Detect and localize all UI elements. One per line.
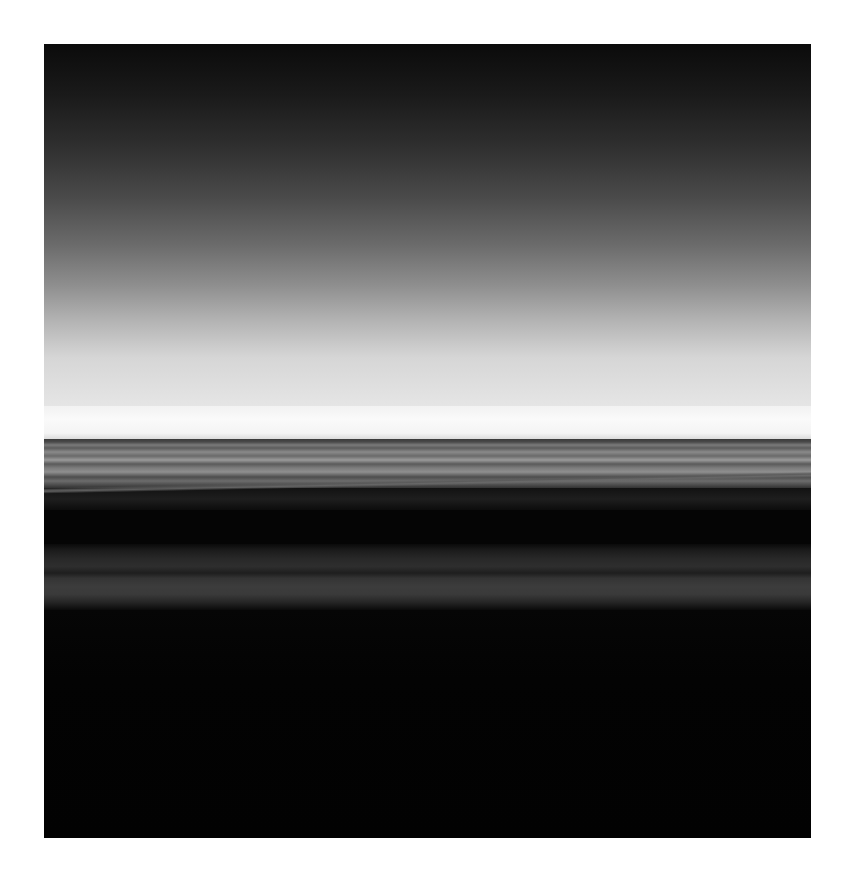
sky-gradient [44,44,811,409]
lower-water-bands [44,544,811,610]
horizon-glow [44,406,811,440]
dark-foreground [44,610,811,838]
seascape-photograph: Long-exposure monochrome seascape with b… [44,44,811,838]
